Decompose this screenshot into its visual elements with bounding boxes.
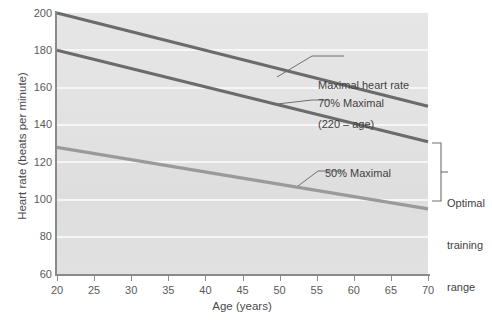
annotation-optimal-line2: training (447, 238, 485, 252)
annotation-maximal-line1: Maximal heart rate (318, 79, 409, 92)
annotation-optimal-line1: Optimal (447, 196, 485, 210)
annotation-optimal-training-range: Optimal training range (447, 168, 485, 322)
annotation-50-percent-maximal: 50% Maximal (325, 167, 391, 180)
chart-figure: 200 180 160 140 120 100 80 60 20 25 30 3… (0, 0, 492, 325)
annotation-optimal-line3: range (447, 280, 485, 294)
annotation-maximal-line2: (220 – age) (318, 118, 409, 131)
annotation-70-percent-maximal: 70% Maximal (318, 97, 384, 110)
optimal-range-bracket (432, 143, 441, 201)
chart-lines-overlay (0, 0, 492, 325)
